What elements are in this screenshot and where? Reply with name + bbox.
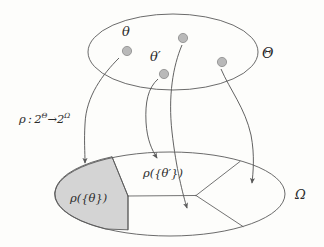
arrow-point3-to-lower-middle bbox=[171, 45, 187, 208]
label-theta-prime: θ′ bbox=[150, 50, 161, 63]
partition-line-5 bbox=[196, 196, 243, 227]
point-theta-prime bbox=[159, 69, 168, 78]
arrow-point4-to-right-region bbox=[221, 69, 253, 183]
label-theta: θ bbox=[122, 25, 130, 38]
rho-map-arrow-glyph: → bbox=[47, 112, 57, 126]
partition-line-3 bbox=[128, 196, 196, 197]
label-rho-singleton-theta: ρ({θ}) bbox=[70, 193, 107, 205]
arrow-theta-to-rho-theta bbox=[85, 58, 119, 163]
label-rho-singleton-theta-prime: ρ({θ′}) bbox=[143, 168, 183, 180]
arrow-theta-prime-to-rho-theta-prime bbox=[146, 79, 158, 158]
rho-map-exponent-omega: Ω bbox=[64, 111, 70, 120]
theta-points bbox=[122, 33, 226, 78]
set-mapping-diagram: θ θ′ Θ ρ : 2Θ→2Ω ρ({θ}) ρ({θ′}) Ω bbox=[0, 0, 324, 247]
label-rho-mapping: ρ : 2Θ→2Ω bbox=[19, 112, 70, 125]
partition-line-4 bbox=[196, 162, 240, 196]
point-4 bbox=[217, 57, 226, 66]
label-omega: Ω bbox=[295, 188, 306, 201]
point-3 bbox=[178, 33, 187, 42]
label-big-theta: Θ bbox=[262, 46, 273, 60]
point-theta bbox=[122, 46, 131, 55]
rho-map-prefix: ρ : 2 bbox=[19, 112, 42, 126]
